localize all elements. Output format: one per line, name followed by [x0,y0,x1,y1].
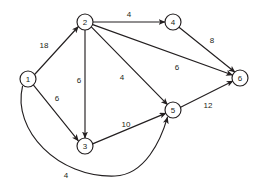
edge-weight-3-5: 10 [122,120,131,129]
node-label-1: 1 [26,75,31,84]
graph-edge-1-to-5 [21,86,168,176]
graph-edge-3-to-5 [93,113,166,144]
graph-diagram: 1864644610812 123456 [0,0,263,186]
edge-weight-2-3: 6 [77,76,82,85]
graph-node-4[interactable]: 4 [165,14,181,30]
graph-node-6[interactable]: 6 [232,70,248,86]
graph-node-1[interactable]: 1 [20,71,36,87]
edge-weight-1-5: 4 [64,171,69,180]
graph-edge-2-to-5 [91,27,167,105]
edges-layer [21,22,235,176]
graph-node-2[interactable]: 2 [77,14,93,30]
edge-weight-4-6: 8 [210,36,215,45]
edge-weight-2-5: 4 [120,73,125,82]
graph-node-5[interactable]: 5 [165,102,181,118]
node-label-6: 6 [238,74,243,83]
edge-weight-5-6: 12 [204,101,213,110]
edge-weight-1-3: 6 [55,94,60,103]
node-label-4: 4 [171,18,176,27]
node-label-3: 3 [83,142,88,151]
graph-canvas: 1864644610812 123456 [0,0,263,186]
edge-weight-2-6: 6 [175,63,180,72]
edge-weight-2-4: 4 [127,10,132,19]
graph-edge-1-to-2 [35,27,79,75]
edge-weight-1-2: 18 [40,41,49,50]
graph-node-3[interactable]: 3 [77,138,93,154]
node-label-2: 2 [83,18,88,27]
node-label-5: 5 [171,106,176,115]
